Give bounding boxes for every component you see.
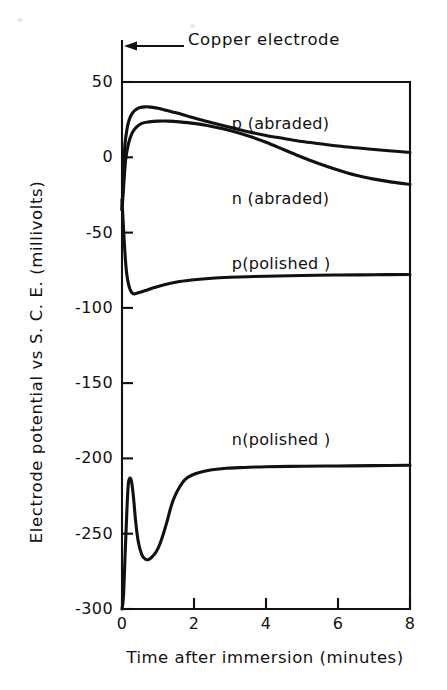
y-tick-label: -150	[57, 373, 113, 392]
copper-electrode-arrow-icon	[124, 42, 184, 51]
chart-canvas	[0, 0, 447, 690]
data-curves	[122, 107, 410, 609]
series-curve	[122, 199, 410, 293]
y-tick-label: -100	[57, 298, 113, 317]
y-tick-label: 50	[57, 72, 113, 91]
y-axis-title: Electrode potential vs S. C. E. (millivo…	[27, 112, 46, 612]
figure-panel: 50 0 -50 -100 -150 -200 -250 -300 0 2 4 …	[0, 0, 447, 690]
x-tick-label: 0	[102, 614, 142, 633]
x-tick-label: 8	[390, 614, 430, 633]
series-label-p-polished: p(polished )	[232, 254, 331, 273]
y-tick-label: -250	[57, 524, 113, 543]
y-tick-label: -50	[57, 223, 113, 242]
copper-electrode-annotation: Copper electrode	[188, 30, 340, 49]
scan-speck	[190, 24, 195, 28]
x-tick-label: 4	[246, 614, 286, 633]
series-label-p-abraded: p (abraded)	[232, 114, 330, 133]
scan-speck	[17, 18, 23, 22]
x-axis-ticks	[122, 598, 410, 609]
series-label-n-polished: n(polished )	[232, 430, 331, 449]
series-label-n-abraded: n (abraded)	[232, 189, 330, 208]
x-tick-label: 6	[318, 614, 358, 633]
y-tick-label: -200	[57, 448, 113, 467]
y-tick-label: 0	[57, 147, 113, 166]
series-curve	[122, 465, 410, 609]
x-tick-label: 2	[174, 614, 214, 633]
x-axis-title: Time after immersion (minutes)	[100, 648, 430, 667]
